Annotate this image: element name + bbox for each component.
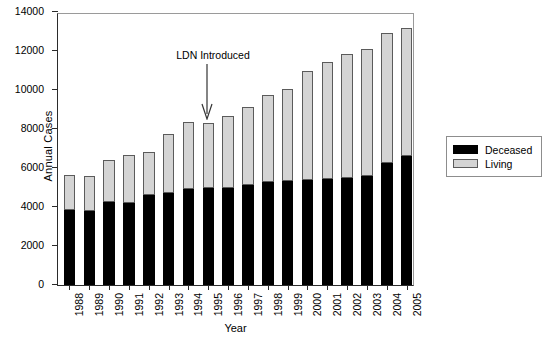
bar-2003 bbox=[361, 49, 373, 285]
annotation-label-ldn-introduced: LDN Introduced bbox=[176, 49, 250, 61]
bar-segment-living-1989 bbox=[84, 176, 96, 211]
x-tick-label-1988: 1988 bbox=[73, 293, 85, 316]
bar-2001 bbox=[322, 62, 334, 285]
chart-legend: Deceased Living bbox=[446, 136, 542, 177]
bar-segment-deceased-1993 bbox=[163, 193, 175, 285]
x-tick-1993 bbox=[169, 285, 170, 290]
bar-segment-living-1988 bbox=[64, 175, 76, 210]
bar-segment-living-1997 bbox=[242, 107, 254, 185]
bar-segment-deceased-1989 bbox=[84, 211, 96, 285]
bar-segment-living-1993 bbox=[163, 134, 175, 193]
legend-label-deceased: Deceased bbox=[485, 144, 532, 156]
bar-segment-deceased-1991 bbox=[123, 203, 135, 285]
bar-segment-living-2003 bbox=[361, 49, 373, 176]
bar-2004 bbox=[381, 33, 393, 285]
x-tick-label-1992: 1992 bbox=[153, 293, 165, 316]
bar-2000 bbox=[302, 71, 314, 286]
x-tick-2002 bbox=[347, 285, 348, 290]
bar-2005 bbox=[401, 28, 413, 285]
bar-2002 bbox=[341, 54, 353, 285]
bar-segment-deceased-2003 bbox=[361, 176, 373, 285]
y-tick-label-8000: 8000 bbox=[21, 122, 44, 134]
bar-segment-living-2001 bbox=[322, 62, 334, 179]
x-axis-title: Year bbox=[57, 322, 414, 334]
bar-segment-living-2000 bbox=[302, 71, 314, 180]
bar-segment-living-2002 bbox=[341, 54, 353, 178]
y-tick-12000: 12000 bbox=[52, 50, 58, 51]
x-tick-label-1996: 1996 bbox=[232, 293, 244, 316]
bar-segment-deceased-1998 bbox=[262, 182, 274, 285]
x-tick-1988 bbox=[69, 285, 70, 290]
bar-1997 bbox=[242, 107, 254, 285]
bar-segment-living-1991 bbox=[123, 155, 135, 203]
bar-segment-deceased-1995 bbox=[203, 188, 215, 285]
y-tick-2000: 2000 bbox=[52, 245, 58, 246]
x-tick-1998 bbox=[268, 285, 269, 290]
bar-segment-deceased-1997 bbox=[242, 185, 254, 285]
y-tick-label-6000: 6000 bbox=[21, 161, 44, 173]
bar-1988 bbox=[64, 175, 76, 285]
x-tick-label-2001: 2001 bbox=[331, 293, 343, 316]
bar-segment-deceased-2004 bbox=[381, 163, 393, 285]
bar-1995 bbox=[203, 123, 215, 285]
bar-segment-deceased-2000 bbox=[302, 180, 314, 285]
y-tick-10000: 10000 bbox=[52, 89, 58, 90]
bar-segment-deceased-1994 bbox=[183, 189, 195, 285]
x-tick-label-2005: 2005 bbox=[411, 293, 423, 316]
x-tick-label-2004: 2004 bbox=[391, 293, 403, 316]
x-tick-label-2003: 2003 bbox=[371, 293, 383, 316]
bar-segment-deceased-1996 bbox=[222, 188, 234, 286]
legend-label-living: Living bbox=[485, 158, 512, 170]
bar-segment-deceased-1988 bbox=[64, 210, 76, 285]
bar-segment-living-1996 bbox=[222, 116, 234, 187]
bar-segment-living-2004 bbox=[381, 33, 393, 163]
y-tick-label-12000: 12000 bbox=[15, 44, 44, 56]
x-tick-1994 bbox=[188, 285, 189, 290]
bar-segment-living-1999 bbox=[282, 89, 294, 181]
bar-segment-deceased-1992 bbox=[143, 195, 155, 285]
x-tick-1992 bbox=[149, 285, 150, 290]
bar-segment-living-1994 bbox=[183, 122, 195, 189]
bar-1993 bbox=[163, 134, 175, 285]
y-tick-14000: 14000 bbox=[52, 11, 58, 12]
x-tick-2001 bbox=[327, 285, 328, 290]
x-tick-label-1989: 1989 bbox=[93, 293, 105, 316]
bar-segment-deceased-1990 bbox=[103, 202, 115, 285]
black-swatch bbox=[453, 145, 478, 154]
bar-1999 bbox=[282, 89, 294, 285]
x-tick-label-1998: 1998 bbox=[272, 293, 284, 316]
x-tick-2000 bbox=[307, 285, 308, 290]
x-tick-1996 bbox=[228, 285, 229, 290]
x-tick-label-1994: 1994 bbox=[192, 293, 204, 316]
bar-segment-deceased-1999 bbox=[282, 181, 294, 285]
bar-segment-deceased-2002 bbox=[341, 178, 353, 285]
x-tick-label-1997: 1997 bbox=[252, 293, 264, 316]
x-tick-2004 bbox=[387, 285, 388, 290]
y-tick-8000: 8000 bbox=[52, 128, 58, 129]
x-tick-1999 bbox=[288, 285, 289, 290]
x-tick-2005 bbox=[407, 285, 408, 290]
x-tick-1990 bbox=[109, 285, 110, 290]
y-tick-label-0: 0 bbox=[38, 278, 44, 290]
bar-segment-living-1992 bbox=[143, 152, 155, 195]
x-tick-label-1991: 1991 bbox=[133, 293, 145, 316]
bar-1990 bbox=[103, 160, 115, 285]
bar-1991 bbox=[123, 155, 135, 285]
y-tick-4000: 4000 bbox=[52, 206, 58, 207]
annotation-arrow-down-icon bbox=[200, 64, 214, 120]
bar-segment-deceased-2001 bbox=[322, 179, 334, 285]
y-tick-label-10000: 10000 bbox=[15, 83, 44, 95]
y-tick-6000: 6000 bbox=[52, 167, 58, 168]
bar-segment-living-2005 bbox=[401, 28, 413, 157]
bar-segment-deceased-2005 bbox=[401, 156, 413, 285]
y-tick-label-4000: 4000 bbox=[21, 200, 44, 212]
bar-1998 bbox=[262, 95, 274, 285]
y-tick-0: 0 bbox=[52, 284, 58, 285]
y-tick-label-14000: 14000 bbox=[15, 5, 44, 17]
x-tick-1997 bbox=[248, 285, 249, 290]
x-tick-label-2002: 2002 bbox=[351, 293, 363, 316]
bar-1992 bbox=[143, 152, 155, 285]
bar-segment-living-1998 bbox=[262, 95, 274, 182]
bar-1994 bbox=[183, 122, 195, 285]
